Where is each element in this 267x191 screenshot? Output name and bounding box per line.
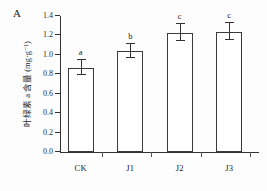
y-tick-label: 1.0: [43, 49, 53, 58]
x-tick-label-j2: J2: [176, 163, 184, 173]
y-tick-0.2: 0.2: [60, 132, 61, 133]
x-tick-label-ck: CK: [75, 163, 87, 173]
error-bar-cap-upper: [77, 59, 86, 60]
y-tick-0.4: 0.4: [60, 112, 61, 113]
y-tick-mark: [55, 73, 60, 74]
error-bar-cap-lower: [225, 39, 234, 40]
significance-letter-j3: c: [227, 10, 231, 20]
significance-letter-j2: c: [178, 11, 182, 21]
error-bar-ck: [81, 60, 82, 76]
x-axis-line: [60, 152, 259, 153]
y-axis-title: 叶绿素 a 含量 (mg·g⁻¹): [17, 18, 35, 150]
y-tick-label: 1.4: [43, 11, 53, 20]
y-tick-mark: [55, 151, 60, 152]
y-tick-1.2: 1.2: [60, 34, 61, 35]
chart-figure: A 叶绿素 a 含量 (mg·g⁻¹) 0.00.20.40.60.81.01.…: [0, 0, 267, 191]
y-tick-1.0: 1.0: [60, 54, 61, 55]
significance-letter-ck: a: [79, 47, 83, 57]
y-axis-title-text: 叶绿素 a 含量 (mg·g⁻¹): [20, 41, 32, 127]
error-bar-cap-upper: [225, 22, 234, 23]
error-bar-cap-lower: [126, 57, 135, 58]
error-bar-j3: [229, 23, 230, 40]
y-tick-label: 1.2: [43, 30, 53, 39]
y-tick-0.0: 0.0: [60, 151, 61, 152]
y-tick-mark: [55, 54, 60, 55]
error-bar-j2: [180, 24, 181, 41]
x-tick-label-j3: J3: [225, 163, 233, 173]
y-tick-mark: [55, 15, 60, 16]
y-tick-1.4: 1.4: [60, 15, 61, 16]
y-tick-mark: [55, 34, 60, 35]
error-bar-cap-lower: [176, 40, 185, 41]
y-tick-label: 0.2: [43, 127, 53, 136]
y-tick-mark: [55, 93, 60, 94]
y-tick-label: 0.6: [43, 88, 53, 97]
bar-j1: [117, 51, 143, 152]
y-tick-0.6: 0.6: [60, 93, 61, 94]
x-minor-tick: [201, 152, 202, 157]
bar-ck: [68, 68, 94, 153]
bar-j3: [216, 32, 242, 152]
y-tick-mark: [55, 132, 60, 133]
x-minor-tick: [250, 152, 251, 157]
error-bar-cap-upper: [176, 23, 185, 24]
significance-letter-j1: b: [128, 31, 132, 41]
y-axis-ticks: 0.00.20.40.60.81.01.21.4: [60, 16, 61, 152]
plot-area: 0.00.20.40.60.81.01.21.4 abcc: [60, 16, 258, 152]
error-bar-cap-upper: [126, 43, 135, 44]
y-tick-label: 0.8: [43, 69, 53, 78]
error-bar-cap-lower: [77, 74, 86, 75]
bar-j2: [167, 33, 193, 152]
x-minor-tick: [102, 152, 103, 157]
x-minor-tick: [151, 152, 152, 157]
y-tick-0.8: 0.8: [60, 73, 61, 74]
x-tick-label-j1: J1: [126, 163, 134, 173]
y-tick-label: 0.0: [43, 147, 53, 156]
error-bar-j1: [130, 44, 131, 58]
y-tick-label: 0.4: [43, 108, 53, 117]
y-tick-mark: [55, 112, 60, 113]
